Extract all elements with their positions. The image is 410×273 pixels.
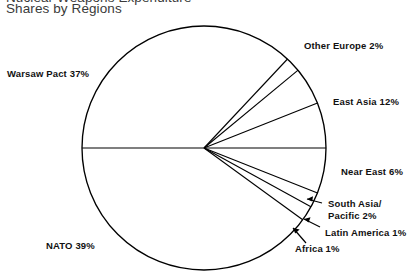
slice-label-east-asia: East Asia 12%	[333, 96, 399, 108]
pie-chart-page: Nuclear Weapons Expenditure Shares by Re…	[0, 0, 410, 273]
slice-label-warsaw-pact: Warsaw Pact 37%	[7, 68, 89, 80]
slice-label-nato: NATO 39%	[46, 240, 95, 252]
slice-label-south-asia-pacific: South Asia/ Pacific 2%	[328, 198, 382, 221]
slice-label-latin-america: Latin America 1%	[325, 227, 406, 239]
slice-label-south-asia-pacific-line1: South Asia/	[328, 198, 382, 209]
slice-label-south-asia-pacific-line2: Pacific 2%	[328, 210, 377, 221]
slice-label-near-east: Near East 6%	[341, 166, 403, 178]
slice-label-other-europe: Other Europe 2%	[304, 40, 383, 52]
slice-label-africa: Africa 1%	[295, 243, 340, 255]
